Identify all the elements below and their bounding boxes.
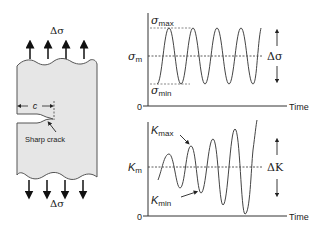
k-max-label: Kmax [151, 124, 173, 138]
k-origin-label: 0 [137, 212, 142, 222]
stress-origin-label: 0 [137, 102, 142, 112]
bottom-load-label: Δσ [50, 198, 64, 209]
top-load-label: Δσ [50, 25, 64, 36]
sigma-mean-label: σm [128, 50, 143, 64]
k-min-pointer [181, 192, 196, 197]
k-min-label: Kmin [151, 194, 171, 208]
k-range-label: ΔK [267, 161, 284, 174]
specimen: Δσ c Sharp crack Δσ [17, 25, 97, 209]
fatigue-diagram: Δσ c Sharp crack Δσ 0 Time [0, 0, 327, 234]
k-mean-label: Km [128, 161, 142, 175]
bottom-load-arrows [29, 180, 83, 195]
k-plot: 0 Time Kmax Km Kmin ΔK [128, 120, 309, 222]
k-max-pointer [180, 135, 188, 143]
stress-x-label: Time [289, 102, 309, 112]
specimen-body [17, 58, 97, 179]
stress-plot: 0 Time σmax σm σmin Δσ [128, 13, 309, 112]
top-load-arrows [30, 44, 84, 59]
crack-label: Sharp crack [25, 135, 65, 144]
crack-length-label: c [33, 101, 38, 111]
sigma-min-label: σmin [151, 84, 171, 98]
sigma-max-label: σmax [151, 14, 174, 28]
k-x-label: Time [289, 212, 309, 222]
stress-range-label: Δσ [267, 50, 283, 63]
